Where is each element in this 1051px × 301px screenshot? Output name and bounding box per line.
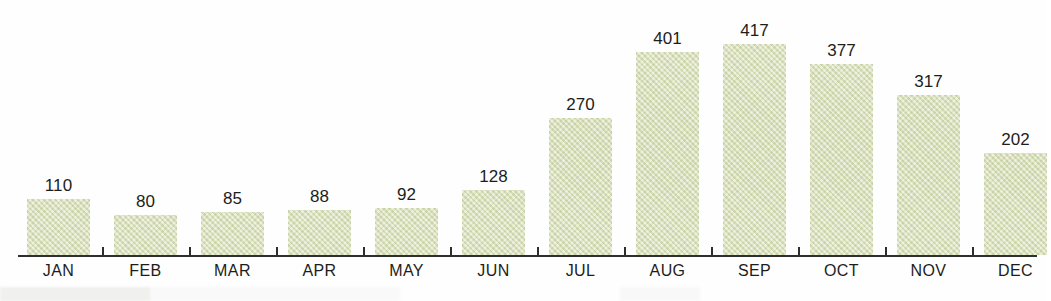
bar-oct — [810, 64, 873, 255]
bar-apr — [288, 210, 351, 255]
bar-value-jun: 128 — [450, 167, 537, 187]
category-label-aug: AUG — [624, 262, 711, 280]
bar-value-aug: 401 — [624, 29, 711, 49]
bar-value-jul: 270 — [537, 95, 624, 115]
bar-value-may: 92 — [363, 185, 450, 205]
bar-value-jan: 110 — [15, 176, 102, 196]
bar-jun — [462, 190, 525, 255]
category-label-apr: APR — [276, 262, 363, 280]
category-label-jan: JAN — [15, 262, 102, 280]
bar-aug — [636, 52, 699, 255]
x-axis-tick — [972, 247, 974, 256]
bar-sep — [723, 44, 786, 255]
category-label-oct: OCT — [798, 262, 885, 280]
x-axis-tick — [363, 247, 365, 256]
bar-value-nov: 317 — [885, 72, 972, 92]
bar-value-dec: 202 — [972, 130, 1051, 150]
category-label-dec: DEC — [972, 262, 1051, 280]
x-axis-tick — [537, 247, 539, 256]
x-axis-tick — [624, 247, 626, 256]
x-axis-tick — [711, 247, 713, 256]
bar-nov — [897, 95, 960, 255]
category-label-feb: FEB — [102, 262, 189, 280]
bar-feb — [114, 215, 177, 255]
x-axis-tick — [276, 247, 278, 256]
x-axis-tick — [189, 247, 191, 256]
category-label-may: MAY — [363, 262, 450, 280]
category-label-mar: MAR — [189, 262, 276, 280]
x-axis-tick — [798, 247, 800, 256]
x-axis-tick — [450, 247, 452, 256]
bar-value-oct: 377 — [798, 41, 885, 61]
bar-value-apr: 88 — [276, 187, 363, 207]
bar-mar — [201, 212, 264, 255]
category-label-sep: SEP — [711, 262, 798, 280]
bar-jan — [27, 199, 90, 255]
bar-dec — [984, 153, 1047, 255]
bar-value-sep: 417 — [711, 21, 798, 41]
bar-value-feb: 80 — [102, 192, 189, 212]
x-axis-tick — [102, 247, 104, 256]
category-label-nov: NOV — [885, 262, 972, 280]
x-axis-tick — [885, 247, 887, 256]
bar-value-mar: 85 — [189, 189, 276, 209]
bar-may — [375, 208, 438, 255]
category-label-jul: JUL — [537, 262, 624, 280]
bar-jul — [549, 118, 612, 255]
category-label-jun: JUN — [450, 262, 537, 280]
